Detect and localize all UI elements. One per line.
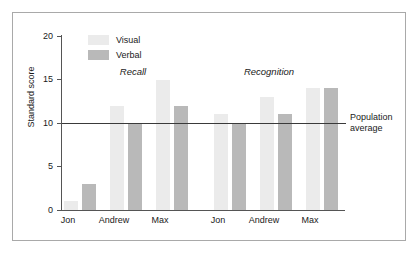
y-tick-label-0: 0 <box>31 205 53 215</box>
y-tick-mark-5 <box>57 166 61 167</box>
population-average-label-line1: Population <box>350 112 410 123</box>
bar-recognition-max-verbal <box>324 88 338 210</box>
y-tick-label-15: 15 <box>31 74 53 84</box>
population-average-label: Population average <box>350 112 410 134</box>
bar-recognition-andrew-visual <box>260 97 274 210</box>
bar-recognition-jon-verbal <box>232 123 246 210</box>
x-label-recall-max: Max <box>137 215 183 225</box>
x-label-recognition-andrew: Andrew <box>241 215 287 225</box>
y-tick-mark-0 <box>57 210 61 211</box>
y-tick-label-5: 5 <box>31 161 53 171</box>
y-axis-title: Standard score <box>26 42 36 152</box>
y-tick-label-10: 10 <box>31 118 53 128</box>
bar-recall-andrew-verbal <box>128 123 142 210</box>
x-label-recall-andrew: Andrew <box>91 215 137 225</box>
y-tick-mark-10 <box>57 123 61 124</box>
bar-recall-max-visual <box>156 80 170 211</box>
bar-recognition-andrew-verbal <box>278 114 292 210</box>
x-axis-line <box>61 210 345 211</box>
x-label-recognition-jon: Jon <box>195 215 241 225</box>
bar-recall-andrew-visual <box>110 106 124 210</box>
bar-recall-jon-visual <box>64 201 78 210</box>
y-tick-mark-15 <box>57 79 61 80</box>
bar-recall-max-verbal <box>174 106 188 210</box>
bar-recognition-jon-visual <box>214 114 228 210</box>
bar-recognition-max-visual <box>306 88 320 210</box>
population-average-label-line2: average <box>350 123 410 134</box>
x-label-recognition-max: Max <box>287 215 333 225</box>
y-tick-mark-20 <box>57 36 61 37</box>
bar-recall-jon-verbal <box>82 184 96 210</box>
x-label-recall-jon: Jon <box>45 215 91 225</box>
figure-container: Standard score 20 15 10 5 0 Visual Verba… <box>0 0 420 255</box>
population-average-line <box>62 123 346 124</box>
y-tick-label-20: 20 <box>31 31 53 41</box>
